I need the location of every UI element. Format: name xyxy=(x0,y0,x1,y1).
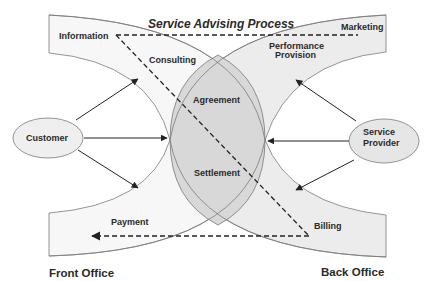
arrow-customer-consulting xyxy=(76,79,138,120)
arrow-customer-payment xyxy=(78,150,138,188)
phase-marketing: Marketing xyxy=(341,22,384,32)
customer-label: Customer xyxy=(26,133,69,143)
service-advising-diagram: Service Advising Process Information Con… xyxy=(0,0,432,281)
phase-settlement: Settlement xyxy=(194,168,240,178)
diagram-title: Service Advising Process xyxy=(148,17,295,31)
provider-label-line1: Service xyxy=(363,127,395,137)
phase-information: Information xyxy=(59,31,109,41)
arrow-provider-billing xyxy=(296,160,354,190)
phase-provision: Provision xyxy=(275,50,316,60)
phase-consulting: Consulting xyxy=(149,55,196,65)
provider-label-line2: Provider xyxy=(363,138,400,148)
phase-agreement: Agreement xyxy=(193,95,240,105)
back-office-label: Back Office xyxy=(321,266,384,278)
arrow-provider-performance xyxy=(296,80,356,121)
phase-payment: Payment xyxy=(111,217,149,227)
phase-billing: Billing xyxy=(314,221,342,231)
front-office-label: Front Office xyxy=(49,267,114,279)
